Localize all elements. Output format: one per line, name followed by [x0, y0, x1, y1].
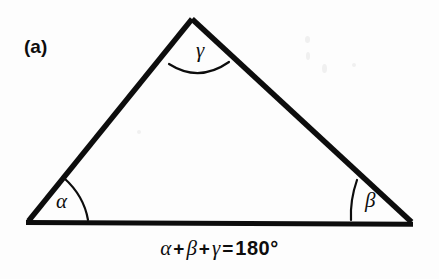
beta-angle-arc	[351, 180, 357, 220]
gamma-angle-arc	[169, 62, 229, 73]
figure-panel-a: (a) α β γ α+β+γ=180°	[0, 0, 439, 279]
equation-caption: α+β+γ=180°	[0, 238, 439, 259]
equation-term-beta: β	[186, 236, 196, 260]
panel-label: (a)	[24, 36, 47, 58]
equation-term-gamma: γ	[212, 236, 220, 260]
alpha-angle-arc	[64, 178, 88, 220]
equation-plus-1: +	[171, 238, 186, 259]
angle-label-beta: β	[365, 190, 375, 211]
equation-equals: =	[220, 238, 235, 259]
equation-term-alpha: α	[160, 236, 171, 260]
triangle-left-edge	[29, 19, 193, 221]
triangle-right-edge	[192, 19, 412, 222]
triangle-outline	[26, 19, 413, 224]
angle-label-gamma: γ	[196, 40, 204, 61]
angle-label-alpha: α	[56, 191, 67, 212]
triangle-base-edge	[26, 223, 413, 225]
equation-plus-2: +	[197, 238, 212, 259]
equation-result: 180°	[235, 237, 278, 259]
